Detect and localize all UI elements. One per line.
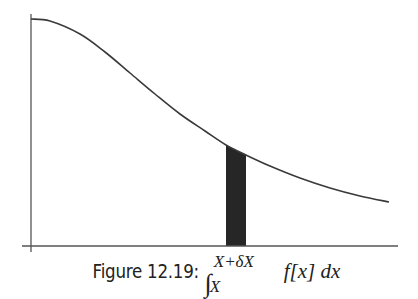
upper-limit: X+δX — [214, 252, 254, 272]
caption-formula: ∫X+δXXf[x] dx — [205, 250, 341, 290]
density-plot — [0, 0, 418, 252]
density-curve — [31, 19, 389, 202]
lower-limit: X — [210, 277, 220, 297]
shaded-integral-strip — [226, 145, 246, 246]
integral-limits: X+δXX — [212, 250, 278, 290]
figure-caption: Figure 12.19: ∫X+δXXf[x] dx — [0, 250, 418, 293]
integrand: f[x] dx — [284, 259, 341, 284]
caption-label: Figure 12.19: — [92, 260, 198, 282]
